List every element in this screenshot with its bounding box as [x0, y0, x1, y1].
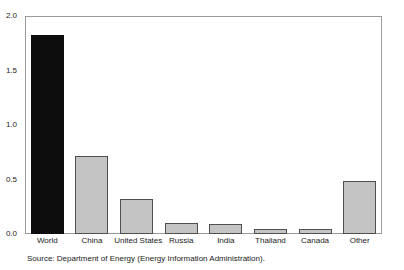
bar-united-states [120, 199, 153, 234]
x-tick-label-canada: Canada [293, 236, 338, 246]
bar-russia [165, 223, 198, 234]
x-tick-label-united-states: United States [114, 236, 159, 246]
y-tick-label: 1.0 [6, 120, 17, 129]
bars-layer [25, 16, 382, 234]
bar-thailand [254, 229, 287, 234]
y-axis: 0.00.51.01.52.0 [0, 0, 25, 270]
bar-india [209, 224, 242, 234]
x-tick-label-china: China [70, 236, 115, 246]
x-tick-label-other: Other [337, 236, 382, 246]
x-tick-label-russia: Russia [159, 236, 204, 246]
y-tick-label: 0.5 [6, 175, 17, 184]
bar-chart-figure: 0.00.51.01.52.0 WorldChinaUnited StatesR… [0, 0, 404, 270]
bar-canada [299, 229, 332, 234]
x-tick-label-thailand: Thailand [248, 236, 293, 246]
x-axis: WorldChinaUnited StatesRussiaIndiaThaila… [25, 236, 382, 250]
y-tick-label: 0.0 [6, 229, 17, 238]
y-tick-label: 2.0 [6, 11, 17, 20]
source-note: Source: Department of Energy (Energy Inf… [27, 254, 265, 264]
bar-other [343, 181, 376, 234]
x-tick-label-world: World [25, 236, 70, 246]
bar-world [31, 35, 64, 234]
x-tick-label-india: India [204, 236, 249, 246]
y-tick-label: 1.5 [6, 66, 17, 75]
bar-china [75, 156, 108, 234]
